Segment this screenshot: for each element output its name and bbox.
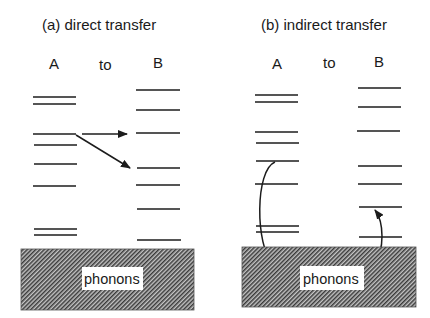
phonon-label-a: phonons — [84, 271, 140, 287]
panel-a-title: (a) direct transfer — [42, 16, 156, 33]
direct-transfer-arrow-diagonal — [76, 135, 130, 168]
panel-indirect-transfer: (b) indirect transfer A to B phono — [242, 16, 416, 307]
panel-b-levels-b — [357, 88, 402, 237]
panel-b-title: (b) indirect transfer — [261, 16, 387, 33]
phonon-label-b: phonons — [303, 271, 359, 287]
panel-b-label-a: A — [272, 55, 282, 72]
panel-a-levels-b — [136, 90, 181, 240]
energy-transfer-diagram: (a) direct transfer A to B phonons — [0, 0, 430, 318]
panel-a-levels-a — [33, 97, 77, 235]
panel-b-label-b: B — [374, 53, 384, 70]
panel-b-label-to: to — [323, 54, 336, 71]
panel-b-levels-a — [255, 95, 299, 232]
panel-direct-transfer: (a) direct transfer A to B phonons — [21, 16, 194, 310]
panel-a-label-a: A — [49, 55, 59, 72]
panel-a-label-b: B — [153, 54, 163, 71]
panel-a-label-to: to — [99, 56, 112, 73]
